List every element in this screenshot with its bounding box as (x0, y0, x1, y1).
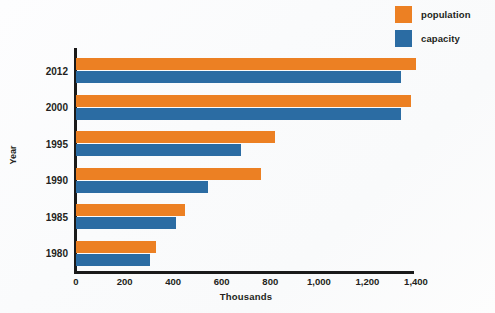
x-tick-label-400: 400 (165, 276, 181, 287)
bar-population-1985 (76, 204, 185, 216)
legend-item-population: population (395, 6, 495, 23)
x-axis-title: Thousands (76, 291, 416, 302)
x-tick-label-600: 600 (214, 276, 230, 287)
bar-capacity-1985 (76, 217, 176, 229)
x-tick-label-0: 0 (73, 276, 78, 287)
y-axis-title: Year (8, 133, 18, 177)
x-tick-label-1200: 1,200 (356, 276, 380, 287)
legend-label-population: population (421, 9, 471, 20)
y-tick-label-1995: 1995 (22, 138, 68, 149)
y-tick-label-2000: 2000 (22, 102, 68, 113)
bar-capacity-2000 (76, 108, 401, 120)
x-tick-label-800: 800 (262, 276, 278, 287)
bar-population-1980 (76, 241, 156, 253)
chart-legend: population capacity (395, 6, 495, 54)
bar-population-1995 (76, 131, 275, 143)
bar-population-1990 (76, 168, 261, 180)
plot-area (76, 50, 416, 272)
legend-swatch-population (395, 6, 412, 23)
bar-population-2012 (76, 58, 416, 70)
bar-capacity-1995 (76, 144, 241, 156)
y-tick-label-1990: 1990 (22, 175, 68, 186)
y-axis-ticks: 201220001995199019851980 (14, 0, 68, 313)
y-tick-label-2012: 2012 (22, 65, 68, 76)
legend-label-capacity: capacity (421, 33, 460, 44)
x-tick-label-1000: 1,000 (307, 276, 331, 287)
y-tick-label-1980: 1980 (22, 248, 68, 259)
bar-capacity-1980 (76, 254, 150, 266)
x-tick-label-1400: 1,400 (404, 276, 428, 287)
bar-capacity-2012 (76, 71, 401, 83)
legend-item-capacity: capacity (395, 30, 495, 47)
bar-population-2000 (76, 95, 411, 107)
x-tick-label-200: 200 (117, 276, 133, 287)
legend-swatch-capacity (395, 30, 412, 47)
y-tick-label-1985: 1985 (22, 211, 68, 222)
bar-chart: population capacity 20122000199519901985… (0, 0, 495, 313)
bar-capacity-1990 (76, 181, 208, 193)
